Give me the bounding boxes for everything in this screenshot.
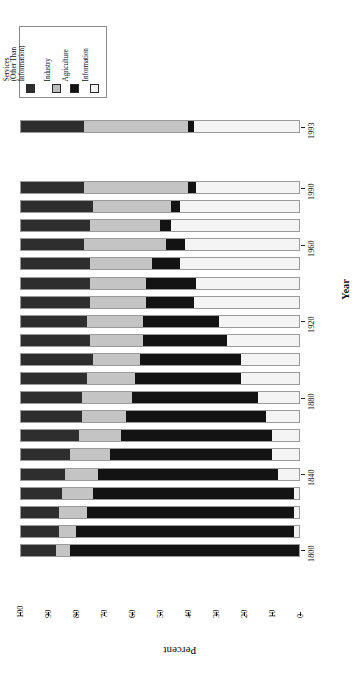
bar-segment-industry (59, 525, 76, 538)
bar-segment-agriculture (70, 544, 300, 557)
stacked-bar-chart: 1993199019601920188018401800 10090807060… (0, 0, 358, 675)
bar-segment-services (20, 200, 93, 213)
bar-segment-industry (56, 544, 70, 557)
bar-segment-agriculture (98, 468, 277, 481)
bar-segment-services (20, 487, 62, 500)
bar-segment-industry (84, 120, 188, 133)
bar-segment-services (20, 257, 90, 270)
bar-row (20, 429, 300, 442)
bar-segment-agriculture (121, 429, 272, 442)
year-tick-label: 1993 (307, 122, 316, 139)
bar-segment-industry (90, 257, 152, 270)
bar-segment-services (20, 544, 56, 557)
bar-segment-information (258, 391, 300, 404)
year-tick-mark (301, 127, 305, 128)
percent-tick-label: 10 (268, 610, 277, 618)
bar-row (20, 200, 300, 213)
bar-segment-services (20, 296, 90, 309)
bar-segment-services (20, 391, 82, 404)
percent-axis-title: Percent (140, 645, 220, 657)
bar-row (20, 334, 300, 347)
year-tick-label: 1990 (307, 183, 316, 200)
bar-segment-services (20, 315, 87, 328)
bar-segment-information (266, 410, 300, 423)
bar-segment-services (20, 525, 59, 538)
bar-segment-information (185, 238, 300, 251)
year-tick-mark (301, 398, 305, 399)
bar-segment-industry (79, 429, 121, 442)
bar-segment-services (20, 468, 65, 481)
bar-row (20, 181, 300, 194)
bar-segment-industry (84, 238, 165, 251)
bar-segment-information (241, 353, 300, 366)
bar-segment-agriculture (188, 181, 196, 194)
bar-row (20, 120, 300, 133)
bar-row (20, 219, 300, 232)
percent-tick-label: 100 (16, 605, 25, 618)
percent-tick-label: 50 (156, 610, 165, 618)
bar-segment-information (196, 277, 300, 290)
percent-tick-label: 30 (212, 610, 221, 618)
bar-row (20, 410, 300, 423)
year-tick-mark (301, 245, 305, 246)
bar-segment-information (272, 429, 300, 442)
bar-segment-information (196, 181, 300, 194)
bar-segment-industry (93, 200, 171, 213)
bar-segment-services (20, 277, 90, 290)
bar-row (20, 315, 300, 328)
bar-segment-information (194, 120, 300, 133)
bar-segment-agriculture (110, 448, 272, 461)
percent-tick-label: 90 (44, 610, 53, 618)
bar-segment-agriculture (143, 334, 227, 347)
bar-segment-services (20, 120, 84, 133)
bar-segment-information (241, 372, 300, 385)
bar-segment-information (278, 468, 300, 481)
bar-segment-services (20, 506, 59, 519)
bar-segment-agriculture (160, 219, 171, 232)
bar-segment-information (294, 525, 300, 538)
bar-segment-industry (84, 181, 188, 194)
bar-segment-services (20, 410, 82, 423)
year-tick-mark (301, 321, 305, 322)
percent-tick-label: 20 (240, 610, 249, 618)
bar-segment-services (20, 353, 93, 366)
bar-row (20, 487, 300, 500)
bar-segment-information (180, 257, 300, 270)
bar-row (20, 353, 300, 366)
year-tick-mark (301, 188, 305, 189)
bar-segment-information (219, 315, 300, 328)
bar-segment-industry (62, 487, 93, 500)
bar-segment-information (194, 296, 300, 309)
bar-segment-information (227, 334, 300, 347)
bar-row (20, 296, 300, 309)
year-tick-mark (301, 550, 305, 551)
bar-segment-industry (82, 391, 132, 404)
bar-segment-information (171, 219, 300, 232)
bar-segment-agriculture (135, 372, 241, 385)
bar-segment-agriculture (171, 200, 179, 213)
bar-segment-services (20, 429, 79, 442)
bar-segment-industry (70, 448, 109, 461)
year-tick-label: 1960 (307, 240, 316, 257)
bar-segment-services (20, 448, 70, 461)
bar-segment-industry (87, 372, 135, 385)
bar-segment-agriculture (166, 238, 186, 251)
year-axis-title: Year (340, 279, 351, 300)
bar-row (20, 257, 300, 270)
bar-segment-industry (82, 410, 127, 423)
bar-segment-industry (90, 277, 146, 290)
bar-row (20, 506, 300, 519)
bar-segment-information (294, 487, 300, 500)
bar-row (20, 372, 300, 385)
bar-segment-agriculture (76, 525, 294, 538)
bar-row (20, 448, 300, 461)
bar-segment-information (272, 448, 300, 461)
bar-segment-industry (65, 468, 99, 481)
year-tick-label: 1840 (307, 469, 316, 486)
bar-segment-information (180, 200, 300, 213)
year-tick-label: 1920 (307, 316, 316, 333)
bar-segment-services (20, 181, 84, 194)
bar-row (20, 544, 300, 557)
bar-segment-industry (87, 315, 143, 328)
bar-segment-agriculture (143, 315, 219, 328)
